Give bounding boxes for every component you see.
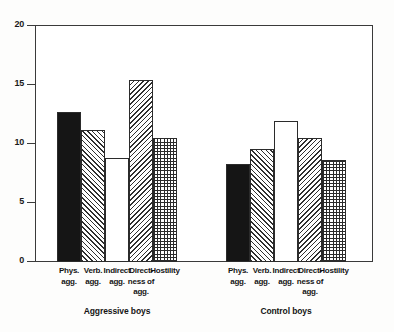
bar-aggressive-boys-hostility xyxy=(153,138,177,262)
bar-aggressive-boys-direct-ness-of-agg xyxy=(129,80,153,262)
bar-group-control-boys xyxy=(226,25,346,262)
x-label-line: Hostility xyxy=(147,266,183,277)
x-label-line: ness of xyxy=(123,277,159,288)
bar-aggressive-boys-verb-agg xyxy=(81,130,105,262)
x-label-line: ness of xyxy=(292,277,328,288)
y-tick-label-0: 0 xyxy=(19,254,24,267)
y-tick-line xyxy=(27,261,35,262)
y-tick-label-10: 10 xyxy=(14,136,24,149)
x-label-line: Hostility xyxy=(316,266,352,277)
y-tick-20: 20 xyxy=(0,25,35,26)
y-tick-10: 10 xyxy=(0,143,35,144)
y-tick-label-5: 5 xyxy=(19,195,24,208)
y-tick-5: 5 xyxy=(0,202,35,203)
bar-chart: 20 15 10 5 0 Phys.agg.Verb.agg.Indirecta… xyxy=(0,0,394,332)
x-label-line: agg. xyxy=(123,287,159,298)
x-label-line: agg. xyxy=(292,287,328,298)
y-axis: 20 15 10 5 0 xyxy=(0,0,35,332)
x-axis-labels: Phys.agg.Verb.agg.Indirectagg.Direct-nes… xyxy=(35,266,373,308)
y-tick-line xyxy=(27,84,35,85)
bar-aggressive-boys-phys-agg xyxy=(57,112,81,262)
bar-control-boys-verb-agg xyxy=(250,149,274,262)
bar-control-boys-phys-agg xyxy=(226,164,250,262)
y-tick-label-20: 20 xyxy=(14,18,24,31)
bar-control-boys-indirect-agg xyxy=(274,121,298,262)
y-tick-line xyxy=(27,202,35,203)
x-label-hostility: Hostility xyxy=(147,266,183,277)
bar-group-aggressive-boys xyxy=(57,25,177,262)
group-caption-aggressive-boys: Aggressive boys xyxy=(57,306,177,316)
x-label-hostility: Hostility xyxy=(316,266,352,277)
y-tick-15: 15 xyxy=(0,84,35,85)
y-tick-label-15: 15 xyxy=(14,77,24,90)
group-caption-control-boys: Control boys xyxy=(226,306,346,316)
y-tick-line xyxy=(27,25,35,26)
y-tick-line xyxy=(27,143,35,144)
bar-control-boys-hostility xyxy=(322,160,346,262)
y-tick-0: 0 xyxy=(0,261,35,262)
bar-control-boys-direct-ness-of-agg xyxy=(298,138,322,262)
bars-layer xyxy=(35,25,373,262)
bar-aggressive-boys-indirect-agg xyxy=(105,158,129,262)
